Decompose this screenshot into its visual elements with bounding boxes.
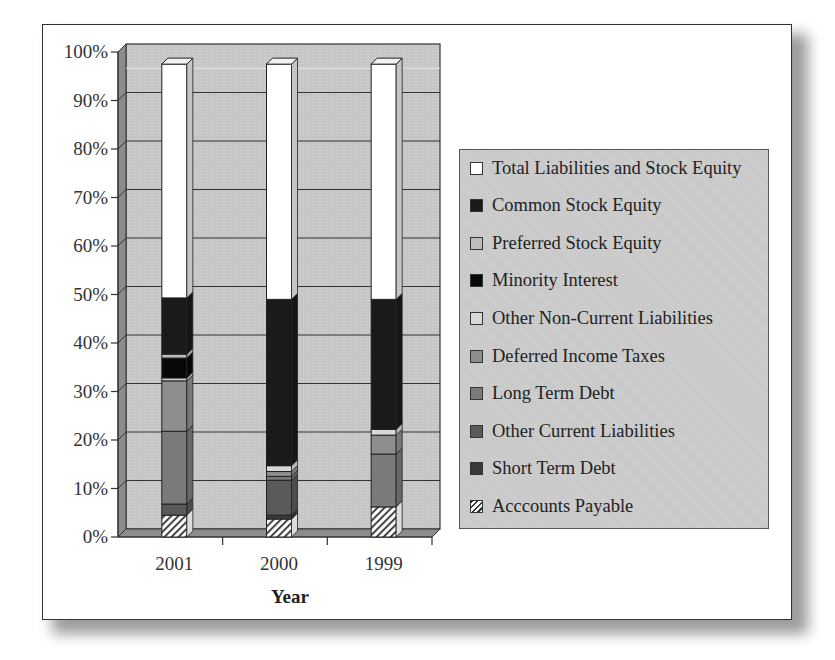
bar-segment <box>162 381 187 431</box>
x-axis-title: Year <box>271 586 310 607</box>
legend-label: Deferred Income Taxes <box>492 346 665 367</box>
bar-1999 <box>371 58 402 537</box>
legend-item: Deferred Income Taxes <box>470 344 665 368</box>
legend-item: Common Stock Equity <box>470 194 662 218</box>
bar-segment <box>267 472 292 477</box>
legend-swatch-icon <box>470 425 483 438</box>
bar-segment <box>162 64 187 298</box>
y-tick-label: 100% <box>64 41 109 62</box>
legend-swatch-icon <box>470 387 483 400</box>
legend-item: Minority Interest <box>470 269 618 293</box>
bar-segment <box>267 515 292 519</box>
y-tick-label: 20% <box>73 429 108 450</box>
bar-segment <box>371 299 396 429</box>
legend-swatch-icon <box>470 500 483 513</box>
legend-swatch-icon <box>470 350 483 363</box>
x-tick-label: 2001 <box>155 553 193 574</box>
legend-label: Other Current Liabilities <box>492 421 675 442</box>
bar-segment <box>371 507 396 537</box>
legend-label: Common Stock Equity <box>492 195 662 216</box>
y-tick-label: 70% <box>73 187 108 208</box>
bar-segment <box>162 515 187 537</box>
y-tick-label: 60% <box>73 235 108 256</box>
bar-segment <box>162 358 187 378</box>
legend-item: Long Term Debt <box>470 382 615 406</box>
y-tick-label: 0% <box>83 526 109 547</box>
legend-label: Acccounts Payable <box>492 496 633 517</box>
bar-segment <box>267 466 292 472</box>
legend-swatch-icon <box>470 162 483 175</box>
bar-segment <box>162 504 187 515</box>
legend-swatch-icon <box>470 237 483 250</box>
legend-swatch-icon <box>470 462 483 475</box>
bar-segment <box>371 435 396 454</box>
legend-item: Other Non-Current Liabilities <box>470 306 713 330</box>
legend-swatch-icon <box>470 274 483 287</box>
legend-item: Acccounts Payable <box>470 494 633 518</box>
y-tick-label: 40% <box>73 332 108 353</box>
bar-segment <box>267 476 292 480</box>
bar-2001 <box>162 58 193 537</box>
bar-top <box>371 58 402 64</box>
legend-item: Short Term Debt <box>470 457 616 481</box>
legend-label: Total Liabilities and Stock Equity <box>492 158 741 179</box>
legend-label: Other Non-Current Liabilities <box>492 308 713 329</box>
x-tick-label: 1999 <box>365 553 403 574</box>
y-tick-label: 30% <box>73 381 108 402</box>
y-tick-label: 80% <box>73 138 108 159</box>
bar-segment <box>162 431 187 504</box>
legend-item: Total Liabilities and Stock Equity <box>470 156 741 180</box>
legend-swatch-icon <box>470 199 483 212</box>
bar-segment <box>267 519 292 537</box>
legend: Total Liabilities and Stock EquityCommon… <box>459 149 769 529</box>
bar-segment <box>267 64 292 299</box>
bar-segment <box>371 64 396 299</box>
bar-segment <box>371 429 396 435</box>
y-tick-label: 90% <box>73 90 108 111</box>
bar-top <box>162 58 193 64</box>
y-tick-label: 50% <box>73 284 108 305</box>
legend-swatch-icon <box>470 312 483 325</box>
bar-top <box>267 58 298 64</box>
legend-item: Other Current Liabilities <box>470 419 675 443</box>
bar-segment <box>162 354 187 358</box>
bar-segment <box>267 299 292 465</box>
bar-2000 <box>267 58 298 537</box>
legend-label: Preferred Stock Equity <box>492 233 662 254</box>
x-tick-label: 2000 <box>260 553 298 574</box>
y-tick-label: 10% <box>73 478 108 499</box>
legend-label: Long Term Debt <box>492 383 615 404</box>
bar-segment <box>371 454 396 507</box>
bar-segment <box>162 298 187 354</box>
legend-item: Preferred Stock Equity <box>470 231 662 255</box>
legend-label: Minority Interest <box>492 270 618 291</box>
legend-label: Short Term Debt <box>492 458 616 479</box>
bar-segment <box>267 480 292 515</box>
